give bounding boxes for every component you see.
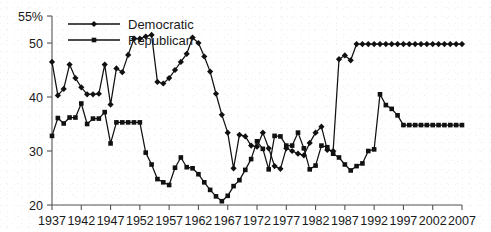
series-democratic [49,32,465,172]
y-tick-label: 20 [29,199,43,213]
y-tick-label: 30 [29,145,43,159]
y-tick-label: 40 [29,91,43,105]
y-axis: 2030405055% [18,10,52,213]
y-tick-label: 55% [18,10,43,24]
x-tick-label: 1942 [67,214,95,228]
legend-label: Democratic [128,17,194,32]
x-tick-label: 1952 [126,214,154,228]
x-axis: 1937194219471952195719621967197219771982… [38,205,476,228]
x-tick-label: 1957 [155,214,183,228]
legend-item-republican: Republican [68,33,193,48]
legend-label: Republican [128,33,193,48]
party-identification-chart: 2030405055% 1937194219471952195719621967… [0,0,491,232]
series-layer [49,32,465,204]
x-tick-label: 1972 [243,214,271,228]
x-tick-label: 1967 [214,214,242,228]
x-tick-label: 1997 [390,214,418,228]
x-tick-label: 1962 [185,214,213,228]
x-tick-label: 1937 [38,214,66,228]
x-tick-label: 1987 [331,214,359,228]
x-tick-label: 1992 [360,214,388,228]
x-tick-label: 1947 [97,214,125,228]
chart-legend: DemocraticRepublican [68,17,194,48]
x-tick-label: 2007 [448,214,476,228]
x-tick-label: 1977 [272,214,300,228]
x-tick-label: 1982 [302,214,330,228]
y-tick-label: 50 [29,37,43,51]
legend-item-democratic: Democratic [68,17,194,32]
x-tick-label: 2002 [419,214,447,228]
chart-canvas: 2030405055% 1937194219471952195719621967… [0,0,491,232]
